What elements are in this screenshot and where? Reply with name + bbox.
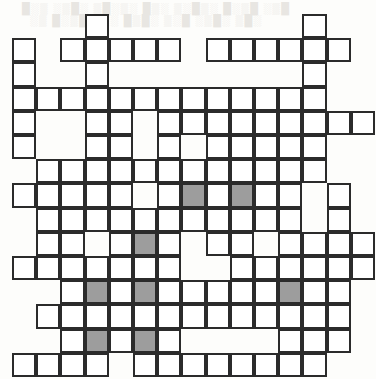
grid-cell[interactable] [12,353,36,377]
grid-cell[interactable] [206,135,230,159]
grid-cell[interactable] [327,38,351,62]
grid-cell[interactable] [351,111,375,135]
crossword-grid[interactable] [0,0,376,379]
grid-cell[interactable] [302,87,326,111]
grid-cell[interactable] [327,280,351,304]
grid-cell[interactable] [230,256,254,280]
grid-cell[interactable] [85,353,109,377]
grid-cell[interactable] [60,87,84,111]
grid-cell[interactable] [36,159,60,183]
grid-cell[interactable] [278,38,302,62]
grid-cell[interactable] [254,280,278,304]
grid-cell[interactable] [12,111,36,135]
grid-cell[interactable] [254,304,278,328]
grid-cell[interactable] [230,87,254,111]
grid-cell[interactable] [133,87,157,111]
grid-cell[interactable] [109,135,133,159]
grid-cell[interactable] [157,135,181,159]
grid-cell-shaded[interactable] [278,280,302,304]
grid-cell[interactable] [302,159,326,183]
grid-cell[interactable] [157,329,181,353]
grid-cell[interactable] [302,14,326,38]
grid-cell[interactable] [157,159,181,183]
grid-cell[interactable] [278,208,302,232]
grid-cell[interactable] [12,183,36,207]
grid-cell[interactable] [230,304,254,328]
grid-cell[interactable] [60,232,84,256]
grid-cell[interactable] [109,87,133,111]
grid-cell[interactable] [36,208,60,232]
grid-cell[interactable] [327,111,351,135]
grid-cell[interactable] [278,232,302,256]
grid-cell[interactable] [206,232,230,256]
grid-cell[interactable] [254,87,278,111]
grid-cell[interactable] [12,62,36,86]
grid-cell[interactable] [230,38,254,62]
grid-cell[interactable] [181,280,205,304]
grid-cell[interactable] [157,208,181,232]
grid-cell[interactable] [12,87,36,111]
grid-cell[interactable] [60,256,84,280]
grid-cell[interactable] [254,111,278,135]
grid-cell[interactable] [109,111,133,135]
grid-cell[interactable] [206,38,230,62]
grid-cell[interactable] [36,256,60,280]
grid-cell[interactable] [133,256,157,280]
grid-cell[interactable] [302,304,326,328]
grid-cell[interactable] [254,353,278,377]
grid-cell[interactable] [60,353,84,377]
grid-cell[interactable] [36,232,60,256]
grid-cell[interactable] [157,304,181,328]
grid-cell[interactable] [181,353,205,377]
grid-cell[interactable] [327,208,351,232]
grid-cell[interactable] [109,183,133,207]
grid-cell[interactable] [12,135,36,159]
grid-cell[interactable] [206,353,230,377]
grid-cell[interactable] [85,159,109,183]
grid-cell[interactable] [254,208,278,232]
grid-cell[interactable] [36,353,60,377]
grid-cell[interactable] [278,304,302,328]
grid-cell[interactable] [327,329,351,353]
grid-cell[interactable] [36,87,60,111]
grid-cell[interactable] [109,159,133,183]
grid-cell[interactable] [278,87,302,111]
grid-cell[interactable] [181,159,205,183]
grid-cell[interactable] [230,111,254,135]
grid-cell[interactable] [278,256,302,280]
grid-cell[interactable] [206,183,230,207]
grid-cell[interactable] [206,111,230,135]
grid-cell[interactable] [302,353,326,377]
grid-cell[interactable] [206,208,230,232]
grid-cell[interactable] [206,304,230,328]
grid-cell[interactable] [109,304,133,328]
grid-cell[interactable] [230,159,254,183]
grid-cell[interactable] [302,280,326,304]
grid-cell[interactable] [254,256,278,280]
grid-cell[interactable] [254,183,278,207]
grid-cell[interactable] [230,232,254,256]
grid-cell[interactable] [109,280,133,304]
grid-cell[interactable] [278,111,302,135]
grid-cell-shaded[interactable] [133,232,157,256]
grid-cell[interactable] [254,38,278,62]
grid-cell[interactable] [278,329,302,353]
grid-cell-shaded[interactable] [85,329,109,353]
grid-cell[interactable] [302,232,326,256]
grid-cell[interactable] [12,38,36,62]
grid-cell[interactable] [60,159,84,183]
grid-cell[interactable] [230,208,254,232]
grid-cell[interactable] [327,183,351,207]
grid-cell[interactable] [85,38,109,62]
grid-cell-shaded[interactable] [133,329,157,353]
grid-cell[interactable] [302,111,326,135]
grid-cell[interactable] [12,256,36,280]
grid-cell[interactable] [85,14,109,38]
grid-cell[interactable] [327,304,351,328]
grid-cell[interactable] [60,183,84,207]
grid-cell[interactable] [230,353,254,377]
grid-cell[interactable] [157,183,181,207]
grid-cell[interactable] [181,208,205,232]
grid-cell[interactable] [85,208,109,232]
grid-cell[interactable] [133,304,157,328]
